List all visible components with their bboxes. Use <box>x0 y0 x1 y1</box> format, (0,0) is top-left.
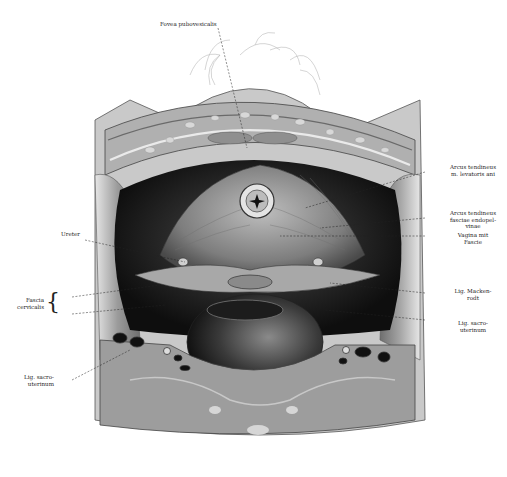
label-line: rodt <box>443 295 503 302</box>
label-line: Vagina mit <box>443 232 503 239</box>
label-lig-sacrouterinum-left: Lig. sacro- uterinum <box>10 374 54 387</box>
ureter-left <box>178 258 188 266</box>
label-vagina-mit-fascie: Vagina mit Fascie <box>443 232 503 245</box>
label-arcus-tendineus-fasciae: Arcus tendineus fasciae endopel- vinae <box>443 210 503 230</box>
label-line: cervicalis <box>10 304 44 311</box>
label-line: Fascie <box>443 239 503 246</box>
label-lig-mackenrodt: Lig. Macken- rodt <box>443 288 503 301</box>
label-line: m. levatoris ani <box>443 171 503 178</box>
label-text: Fovea pubovesicalis <box>160 21 217 27</box>
label-ureter: Ureter <box>40 231 80 238</box>
label-fascia-cervicalis: Fascia cervicalis <box>10 297 44 310</box>
label-line: Lig. sacro- <box>10 374 54 381</box>
label-line: Lig. Macken- <box>443 288 503 295</box>
label-line: Arcus tendineus <box>443 164 503 171</box>
brace-fascia-cervicalis: { <box>46 291 60 313</box>
label-line: fasciae endopel- <box>443 217 503 224</box>
label-line: Arcus tendineus <box>443 210 503 217</box>
ureter-right <box>313 258 323 266</box>
label-arcus-tendineus-levatoris: Arcus tendineus m. levatoris ani <box>443 164 503 177</box>
label-line: uterinum <box>10 381 54 388</box>
cervix <box>228 275 272 289</box>
label-text: Ureter <box>61 231 80 237</box>
label-line: Fascia <box>10 297 44 304</box>
rectus-muscle-right <box>253 132 297 144</box>
hair-strokes <box>190 33 320 96</box>
label-line: uterinum <box>443 327 503 334</box>
label-lig-sacrouterinum-right: Lig. sacro- uterinum <box>443 320 503 333</box>
label-fovea-pubovesicalis: Fovea pubovesicalis <box>160 21 217 28</box>
label-line: Lig. sacro- <box>443 320 503 327</box>
pelvic-floor-illustration <box>0 0 507 477</box>
label-line: vinae <box>443 223 503 230</box>
